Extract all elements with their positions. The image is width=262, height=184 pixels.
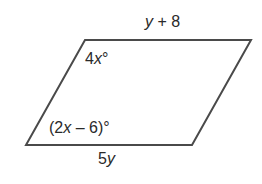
bottom-side-label: 5y [98, 151, 115, 167]
top-side-label: y + 8 [145, 14, 180, 30]
top-left-angle-label: 4x° [85, 51, 108, 67]
parallelogram-figure: y + 8 4x° (2x – 6)° 5y [0, 0, 262, 184]
parallelogram-shape [0, 0, 262, 184]
bottom-left-angle-label: (2x – 6)° [49, 120, 110, 136]
